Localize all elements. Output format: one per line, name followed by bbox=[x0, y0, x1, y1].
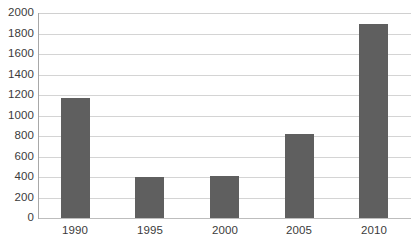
x-tick-label-1990: 1990 bbox=[45, 224, 105, 237]
bar-2005 bbox=[285, 134, 314, 218]
x-tick-label-2010: 2010 bbox=[344, 224, 404, 237]
y-tick-label-1200: 1200 bbox=[0, 89, 34, 101]
y-tick-label-1400: 1400 bbox=[0, 69, 34, 81]
y-tick-label-2000: 2000 bbox=[0, 7, 34, 19]
bar-series bbox=[38, 13, 411, 218]
bar-1990 bbox=[61, 98, 90, 218]
x-tick-label-2005: 2005 bbox=[269, 224, 329, 237]
bar-2010 bbox=[359, 24, 388, 218]
plot-area bbox=[38, 13, 411, 218]
x-tick-label-2000: 2000 bbox=[195, 224, 255, 237]
y-tick-label-400: 400 bbox=[0, 171, 34, 183]
y-tick-label-200: 200 bbox=[0, 192, 34, 204]
y-tick-label-1000: 1000 bbox=[0, 110, 34, 122]
y-tick-label-0: 0 bbox=[0, 212, 34, 224]
y-axis-tick-labels: 0200400600800100012001400160018002000 bbox=[0, 0, 34, 243]
y-tick-label-1600: 1600 bbox=[0, 48, 34, 60]
x-axis-tick-labels: 19901995200020052010 bbox=[38, 224, 411, 242]
y-tick-label-600: 600 bbox=[0, 151, 34, 163]
bar-2000 bbox=[210, 176, 239, 218]
y-tick-label-800: 800 bbox=[0, 130, 34, 142]
bar-chart: 0200400600800100012001400160018002000 19… bbox=[0, 0, 412, 243]
y-axis-line bbox=[38, 13, 39, 219]
bar-1995 bbox=[135, 177, 164, 218]
gridline-0 bbox=[38, 218, 411, 219]
y-tick-label-1800: 1800 bbox=[0, 28, 34, 40]
x-tick-label-1995: 1995 bbox=[120, 224, 180, 237]
